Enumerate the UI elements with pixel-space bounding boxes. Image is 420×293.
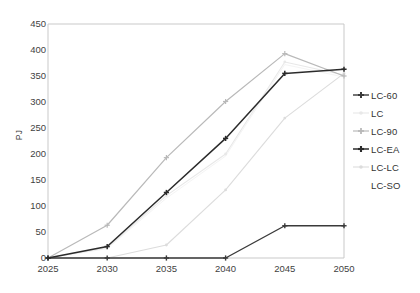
x-axis-tick-label: 2045 [265, 263, 305, 274]
legend-marker-icon [352, 89, 370, 101]
legend-label: LC [371, 108, 383, 119]
line-chart: PJ 050100150200250300350400450 202520302… [0, 0, 420, 293]
x-axis-tick-label: 2035 [146, 263, 186, 274]
legend-label: LC-EA [371, 144, 399, 155]
legend-item-lc-so[interactable]: LC-SO [352, 176, 418, 194]
legend-item-lc-ea[interactable]: LC-EA [352, 140, 418, 158]
legend-item-lc-lc[interactable]: LC-LC [352, 158, 418, 176]
legend-marker-icon [352, 107, 370, 119]
x-axis-tick-label: 2025 [28, 263, 68, 274]
legend-marker-icon [352, 125, 370, 137]
legend-item-lc-90[interactable]: LC-90 [352, 122, 418, 140]
chart-legend: LC-60LCLC-90LC-EALC-LCLC-SO [352, 86, 418, 194]
legend-label: LC-90 [371, 126, 397, 137]
legend-marker-icon [352, 179, 370, 191]
x-axis-tick-label: 2050 [324, 263, 364, 274]
legend-marker-icon [352, 143, 370, 155]
legend-marker-icon [352, 161, 370, 173]
legend-label: LC-60 [371, 90, 397, 101]
x-axis-tick-label: 2030 [87, 263, 127, 274]
legend-item-lc[interactable]: LC [352, 104, 418, 122]
legend-item-lc-60[interactable]: LC-60 [352, 86, 418, 104]
legend-label: LC-SO [371, 180, 401, 191]
x-axis-tick-label: 2040 [206, 263, 246, 274]
legend-label: LC-LC [371, 162, 399, 173]
